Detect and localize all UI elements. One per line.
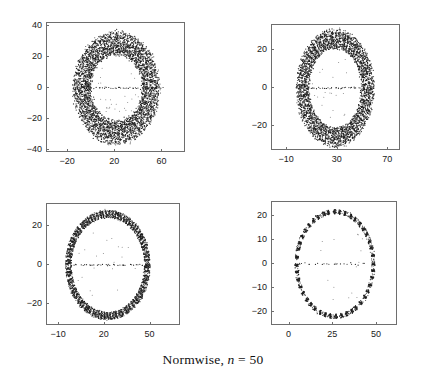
panel-bottom-right: −20−100102002550 — [213, 180, 426, 352]
plot-area-bottom-right — [271, 201, 397, 325]
x-tick-label: 50 — [371, 330, 381, 339]
figure-caption: Normwise, n = 50 — [0, 352, 426, 368]
scatter-points-panel-top-right — [272, 25, 400, 150]
caption-equals: = — [238, 352, 246, 367]
x-tickmark — [286, 147, 287, 150]
y-tickmark — [46, 56, 49, 57]
y-tickmark — [271, 263, 274, 264]
x-tickmark — [289, 322, 290, 325]
caption-variable: n — [228, 352, 235, 367]
panel-bottom-left: −20020−102050 — [0, 180, 213, 352]
x-tickmark — [104, 322, 105, 325]
x-tickmark — [376, 322, 377, 325]
y-tick-label: 20 — [16, 220, 42, 229]
x-tickmark — [161, 149, 162, 152]
y-tickmark — [46, 118, 49, 119]
y-tick-label: 0 — [16, 83, 42, 92]
y-tickmark — [46, 87, 49, 88]
panel-top-right: −20020−103070 — [213, 0, 426, 180]
x-tickmark — [114, 149, 115, 152]
y-tick-label: 0 — [241, 83, 267, 92]
y-tick-label: −40 — [16, 144, 42, 153]
scatter-points-panel-top-left — [47, 23, 185, 152]
y-tickmark — [271, 87, 274, 88]
y-tick-label: 40 — [16, 21, 42, 30]
y-tickmark — [271, 215, 274, 216]
panel-top-left: −40−2002040−202060 — [0, 0, 213, 180]
y-tickmark — [271, 49, 274, 50]
x-tick-label: 20 — [109, 157, 119, 166]
y-tick-label: −10 — [241, 282, 267, 291]
x-tick-label: 25 — [327, 330, 337, 339]
x-tickmark — [337, 147, 338, 150]
x-tickmark — [150, 322, 151, 325]
scatter-points-panel-bottom-right — [272, 202, 397, 325]
x-tickmark — [387, 147, 388, 150]
y-tick-label: −20 — [16, 113, 42, 122]
y-tick-label: 0 — [16, 260, 42, 269]
y-tickmark — [46, 303, 49, 304]
x-tick-label: 30 — [332, 155, 342, 164]
x-tick-label: −20 — [60, 157, 75, 166]
caption-prefix: Normwise, — [163, 352, 224, 367]
y-tick-label: 20 — [16, 52, 42, 61]
x-tick-label: −10 — [279, 155, 294, 164]
x-tick-label: 70 — [382, 155, 392, 164]
y-tick-label: 10 — [241, 235, 267, 244]
y-tickmark — [46, 25, 49, 26]
y-tickmark — [46, 225, 49, 226]
scatter-points-panel-bottom-left — [47, 204, 180, 325]
x-tickmark — [58, 322, 59, 325]
figure-panel-grid: −40−2002040−202060 −20020−103070 −20020−… — [0, 0, 426, 384]
plot-area-top-left — [46, 22, 185, 152]
y-tickmark — [46, 264, 49, 265]
y-tickmark — [271, 125, 274, 126]
y-tick-label: 20 — [241, 44, 267, 53]
x-tickmark — [332, 322, 333, 325]
x-tick-label: 20 — [99, 330, 109, 339]
x-tick-label: 60 — [156, 157, 166, 166]
y-tick-label: 0 — [241, 259, 267, 268]
x-tickmark — [67, 149, 68, 152]
plot-area-bottom-left — [46, 203, 180, 325]
y-tick-label: −20 — [16, 299, 42, 308]
y-tick-label: −20 — [241, 306, 267, 315]
y-tickmark — [271, 287, 274, 288]
x-tick-label: −10 — [51, 330, 66, 339]
x-tick-label: 50 — [145, 330, 155, 339]
x-tick-label: 0 — [286, 330, 291, 339]
y-tickmark — [271, 239, 274, 240]
y-tickmark — [46, 149, 49, 150]
y-tickmark — [271, 311, 274, 312]
y-tick-label: −20 — [241, 121, 267, 130]
plot-area-top-right — [271, 24, 400, 150]
caption-value: 50 — [250, 352, 264, 367]
y-tick-label: 20 — [241, 211, 267, 220]
